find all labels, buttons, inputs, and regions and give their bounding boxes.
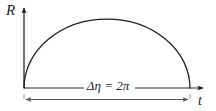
y-axis-label: R (6, 3, 15, 18)
conformal-time-span-label: Δη = 2π (0, 79, 216, 92)
x-axis-label: t (198, 94, 202, 108)
figure-container: R t Δη = 2π (0, 0, 216, 111)
figure-canvas (0, 0, 216, 111)
conformal-time-span-text: Δη = 2π (84, 78, 132, 93)
